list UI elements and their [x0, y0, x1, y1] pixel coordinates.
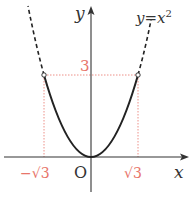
x-axis-label: x	[174, 162, 184, 182]
y-tick-label: 3	[80, 57, 90, 75]
function-label: y=x2	[135, 8, 172, 27]
parabola-figure: y x y=x2 O 3 −√3 √3	[0, 0, 195, 213]
open-point-right	[136, 73, 140, 77]
open-point-left	[42, 73, 46, 77]
y-axis-label: y	[74, 3, 85, 23]
x-tick-left-label: −√3	[20, 165, 50, 181]
function-exponent: 2	[166, 8, 172, 19]
origin-label: O	[74, 163, 87, 182]
x-tick-right-label: √3	[124, 165, 142, 181]
